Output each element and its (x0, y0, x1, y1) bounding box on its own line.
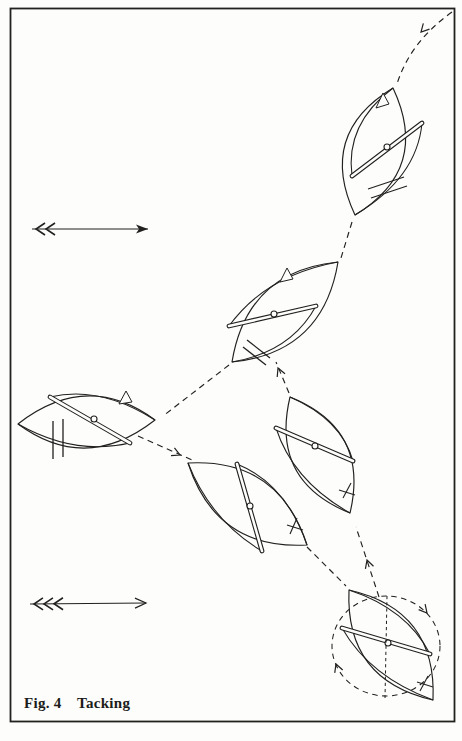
course-segment (276, 362, 289, 393)
mast-icon (247, 503, 253, 509)
bow-flag-icon (280, 268, 293, 282)
figure-title: Tacking (77, 695, 130, 711)
wind-arrow-bottom-icon (30, 598, 146, 610)
mast-icon (384, 144, 390, 150)
book-page: Fig. 4 Tacking (0, 0, 462, 741)
course-arrow-icon (419, 604, 427, 613)
mast-icon (271, 311, 277, 317)
course-segment (307, 547, 346, 586)
course-arrow-icon (277, 368, 285, 377)
boat-right-middle (276, 397, 355, 513)
course-segment (397, 12, 452, 84)
figure-canvas: Fig. 4 Tacking (0, 0, 462, 741)
course-segment (356, 527, 379, 597)
figure-number: Fig. 4 (24, 695, 62, 711)
boat-top-right (342, 88, 422, 215)
board-hull (18, 396, 155, 448)
course-segment (341, 222, 352, 258)
course-arrow-icon (365, 560, 373, 569)
course-segment (163, 365, 229, 416)
wind-arrow-shaft (30, 603, 146, 604)
course-arrow-icon (335, 664, 343, 673)
course-arrow-icon (421, 23, 430, 32)
course-segment (138, 436, 192, 460)
boat-left (18, 391, 155, 459)
wind-arrow-top-icon (32, 223, 148, 235)
boat-upper-middle (229, 262, 338, 365)
mast-icon (91, 416, 97, 422)
mast-icon (312, 443, 318, 449)
boats-layer (18, 88, 433, 700)
bow-flag-icon (119, 391, 132, 404)
boat-lower-middle (188, 463, 307, 551)
